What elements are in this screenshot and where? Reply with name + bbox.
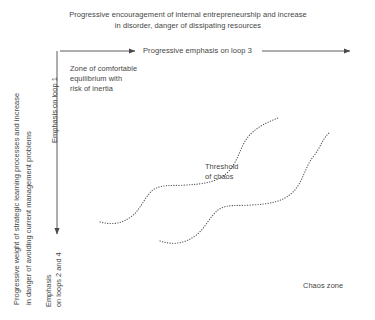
threshold-of-chaos-annotation: Threshold of chaos (205, 162, 265, 182)
diagram-canvas: Progressive encouragement of internal en… (0, 0, 375, 320)
vertical-axis-top-label: Emphasis on loop 1 (50, 77, 60, 143)
zone-of-comfort-annotation: Zone of comfortable equilibrium with ris… (70, 64, 180, 95)
threshold-curve-lower (160, 132, 330, 243)
horizontal-axis-label: Progressive emphasis on loop 3 (143, 46, 252, 55)
diagram-top-caption: Progressive encouragement of internal en… (52, 9, 324, 31)
vertical-axis-bottom-label: Emphasis on loops 2 and 4 (44, 252, 65, 307)
vertical-axis-outer-caption: Progressive weight of strategic learning… (11, 35, 34, 305)
chaos-zone-annotation: Chaos zone (303, 281, 343, 291)
